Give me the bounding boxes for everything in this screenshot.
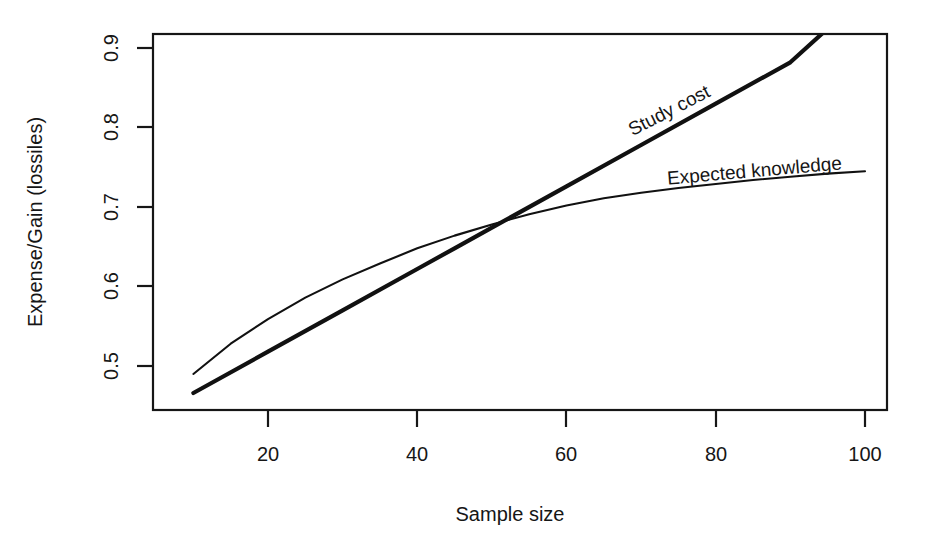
y-tick-label-0.7: 0.7 [100,193,122,221]
y-axis-title: Expense/Gain (lossiles) [24,117,46,327]
y-tick-label-0.6: 0.6 [100,272,122,300]
y-axis-tick-labels: 0.9 0.8 0.7 0.6 0.5 [100,34,122,380]
y-tick-label-0.9: 0.9 [100,34,122,62]
y-tick-label-0.8: 0.8 [100,113,122,141]
chart-figure: 0.9 0.8 0.7 0.6 0.5 Expense/Gain (lossil… [0,0,933,555]
series-line-study-cost [193,22,835,393]
x-tick-label-40: 40 [406,443,428,465]
x-tick-label-60: 60 [555,443,577,465]
x-axis-tick-labels: 20 40 60 80 100 [257,443,882,465]
series-annotation-expected-knowledge: Expected knowledge [666,152,843,188]
x-tick-label-20: 20 [257,443,279,465]
x-tick-label-80: 80 [705,443,727,465]
line-chart-canvas: 0.9 0.8 0.7 0.6 0.5 Expense/Gain (lossil… [0,0,933,555]
y-tick-label-0.5: 0.5 [100,352,122,380]
y-axis-ticks [137,48,153,366]
x-axis-title: Sample size [456,503,565,525]
x-tick-label-100: 100 [848,443,881,465]
x-axis-ticks [268,410,865,427]
series-line-expected-knowledge [193,171,865,374]
